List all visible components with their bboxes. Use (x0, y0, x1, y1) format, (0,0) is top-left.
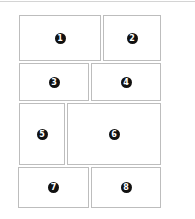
top-divider (0, 1, 195, 2)
number-badge-3: 3 (49, 77, 60, 88)
number-badge-1: 1 (55, 33, 66, 44)
number-badge-4: 4 (121, 77, 132, 88)
number-badge-7: 7 (48, 182, 59, 193)
panel-3: 3 (19, 63, 89, 101)
panel-2: 2 (103, 15, 161, 61)
panel-6: 6 (67, 103, 161, 165)
number-badge-8: 8 (121, 182, 132, 193)
panel-5: 5 (19, 103, 65, 165)
number-badge-2: 2 (127, 33, 138, 44)
number-badge-6: 6 (109, 129, 120, 140)
panel-8: 8 (91, 167, 161, 208)
number-badge-5: 5 (37, 129, 48, 140)
panel-4: 4 (91, 63, 161, 101)
panel-7: 7 (18, 167, 89, 208)
panel-1: 1 (19, 15, 101, 61)
